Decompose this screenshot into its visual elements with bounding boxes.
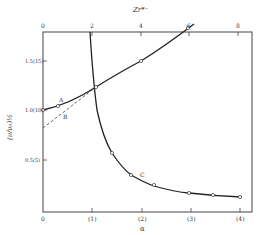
top-tick-4: 4 xyxy=(139,22,143,29)
top-tick-2: 2 xyxy=(90,22,94,29)
bottom-tick-2: (2) xyxy=(138,215,147,222)
bottom-axis-title: α xyxy=(140,225,145,233)
y-tick-1-0: 1.0(10) xyxy=(25,107,43,113)
chart-plot xyxy=(0,0,260,235)
curve-a xyxy=(43,24,194,110)
curve-c xyxy=(90,32,242,197)
curve-a-label: A xyxy=(59,96,63,103)
curve-b-label: B xyxy=(63,113,67,120)
top-tick-6: 6 xyxy=(187,22,191,29)
bottom-tick-0: 0 xyxy=(41,215,45,222)
top-tick-8: 8 xyxy=(236,22,240,29)
y-axis-title: (ν/ν₀)½ xyxy=(6,114,14,140)
y-tick-0-5: 0.5(5) xyxy=(25,157,40,163)
bottom-tick-1: (1) xyxy=(88,215,97,222)
plot-frame xyxy=(43,32,252,212)
top-axis-title: Zr*⁻ xyxy=(133,6,148,14)
bottom-tick-4: (4) xyxy=(236,215,245,222)
curve-c-label: C xyxy=(140,171,145,178)
y-tick-1-5: 1.5(15) xyxy=(25,58,43,64)
bottom-tick-3: (3) xyxy=(187,215,196,222)
top-tick-0: 0 xyxy=(41,22,45,29)
